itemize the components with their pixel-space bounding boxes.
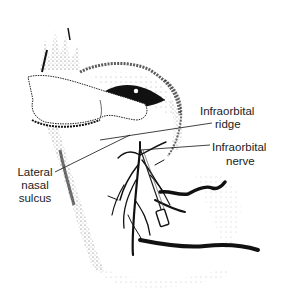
mouth bbox=[140, 240, 258, 250]
label-lateral-nasal-sulcus-line3: sulcus bbox=[14, 192, 56, 205]
label-lateral-nasal-sulcus: Lateral nasal sulcus bbox=[14, 166, 56, 205]
eyebrow bbox=[40, 28, 80, 72]
leader-lines bbox=[55, 123, 212, 172]
label-infraorbital-ridge-line1: Infraorbital bbox=[200, 105, 254, 118]
leader-infraorbital-ridge bbox=[100, 123, 212, 140]
leader-lateral-nasal-sulcus bbox=[55, 135, 130, 172]
label-infraorbital-ridge-line2: ridge bbox=[215, 118, 241, 131]
label-lateral-nasal-sulcus-line1: Lateral bbox=[14, 166, 56, 179]
label-infraorbital-nerve-line2: nerve bbox=[226, 155, 255, 168]
label-lateral-nasal-sulcus-line2: nasal bbox=[14, 179, 56, 192]
label-infraorbital-nerve-line1: Infraorbital bbox=[212, 141, 266, 154]
